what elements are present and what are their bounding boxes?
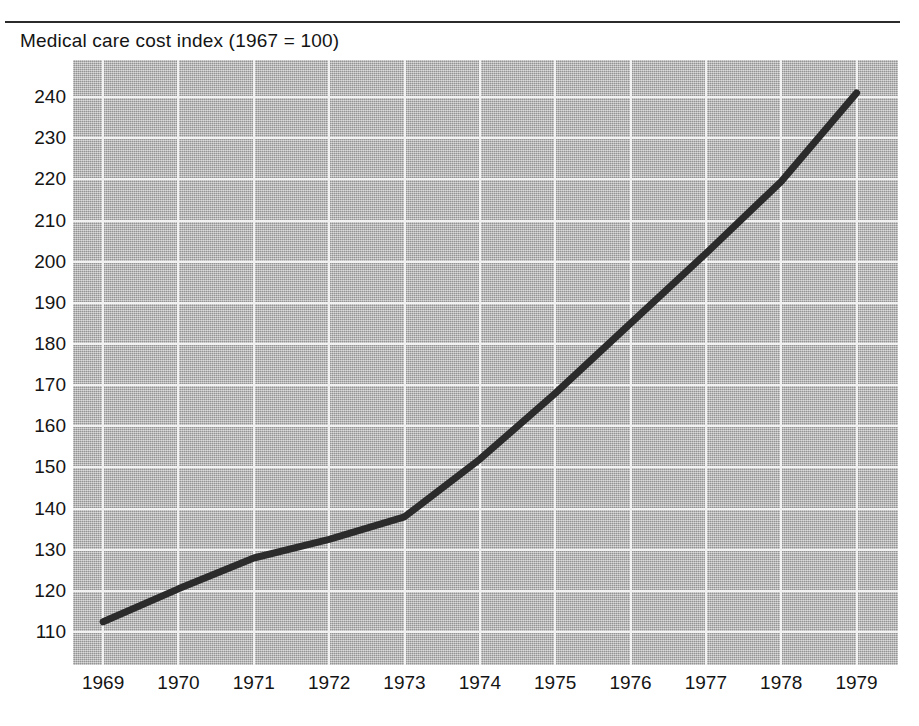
x-axis-tick-label: 1971: [233, 672, 275, 694]
x-axis-tick-label: 1975: [534, 672, 576, 694]
y-axis-tick-label: 110: [6, 621, 66, 643]
x-axis: 1969197019711972197319741975197619771978…: [0, 672, 919, 702]
y-axis-tick-label: 230: [6, 127, 66, 149]
x-axis-tick-label: 1976: [609, 672, 651, 694]
data-series-line: [103, 93, 856, 622]
y-axis-tick-label: 150: [6, 456, 66, 478]
data-line-svg: [73, 60, 898, 665]
y-axis-tick-label: 200: [6, 251, 66, 273]
x-axis-tick-label: 1970: [157, 672, 199, 694]
y-axis-tick-label: 180: [6, 333, 66, 355]
x-axis-tick-label: 1979: [835, 672, 877, 694]
x-axis-tick-label: 1973: [383, 672, 425, 694]
top-divider-rule: [5, 21, 900, 23]
y-axis-tick-label: 190: [6, 292, 66, 314]
y-axis-tick-label: 130: [6, 539, 66, 561]
plot-area: [73, 60, 898, 665]
page-title: Medical care cost index (1967 = 100): [20, 30, 339, 52]
y-axis: 2402302202102001901801701601501401301201…: [0, 60, 66, 665]
y-axis-tick-label: 160: [6, 415, 66, 437]
y-axis-tick-label: 210: [6, 210, 66, 232]
y-axis-tick-label: 140: [6, 498, 66, 520]
x-axis-tick-label: 1972: [308, 672, 350, 694]
x-axis-tick-label: 1974: [459, 672, 501, 694]
y-axis-tick-label: 170: [6, 374, 66, 396]
x-axis-tick-label: 1969: [82, 672, 124, 694]
y-axis-tick-label: 220: [6, 168, 66, 190]
x-axis-tick-label: 1977: [685, 672, 727, 694]
y-axis-tick-label: 120: [6, 580, 66, 602]
chart-figure: Medical care cost index (1967 = 100) 240…: [0, 0, 919, 726]
y-axis-tick-label: 240: [6, 86, 66, 108]
x-axis-tick-label: 1978: [760, 672, 802, 694]
